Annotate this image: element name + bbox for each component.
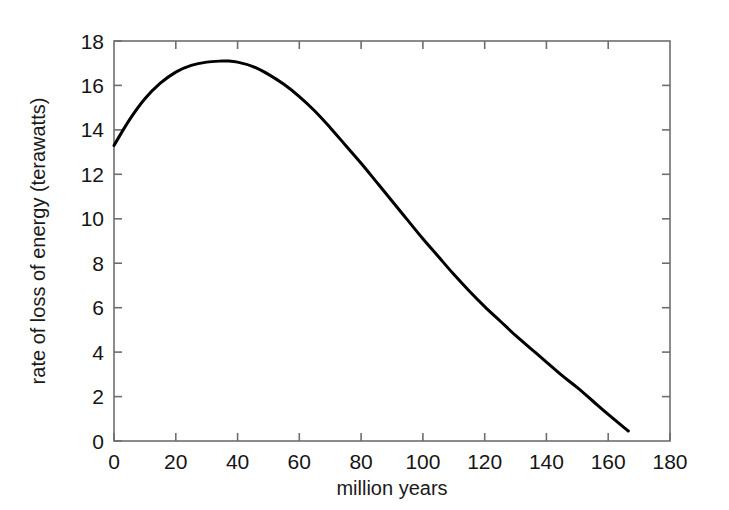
x-tick-label: 60 (288, 450, 311, 473)
x-tick-label: 140 (529, 450, 564, 473)
chart-background (0, 0, 729, 510)
y-tick-label: 2 (92, 385, 104, 408)
y-tick-label: 8 (92, 252, 104, 275)
x-axis-label: million years (336, 477, 447, 499)
y-tick-label: 18 (81, 30, 104, 53)
y-tick-label: 6 (92, 296, 104, 319)
x-tick-label: 20 (164, 450, 187, 473)
x-tick-label: 120 (467, 450, 502, 473)
y-tick-label: 0 (92, 430, 104, 453)
x-tick-label: 160 (591, 450, 626, 473)
x-tick-label: 0 (108, 450, 120, 473)
y-tick-label: 16 (81, 74, 104, 97)
y-tick-label: 12 (81, 163, 104, 186)
y-tick-label: 4 (92, 341, 104, 364)
x-tick-label: 40 (226, 450, 249, 473)
y-tick-label: 14 (81, 118, 105, 141)
x-tick-label: 180 (652, 450, 687, 473)
x-tick-label: 100 (405, 450, 440, 473)
x-tick-label: 80 (349, 450, 372, 473)
y-axis-label: rate of loss of energy (terawatts) (27, 98, 49, 385)
energy-loss-rate-chart: 0 20 40 60 80 100 120 140 160 180 0 2 4 … (0, 0, 729, 510)
y-tick-label: 10 (81, 207, 104, 230)
